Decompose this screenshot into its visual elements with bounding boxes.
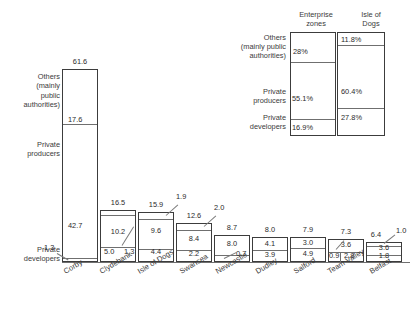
inset-row-label-producers: Private producers (224, 87, 286, 105)
value-corby-producers: 42.7 (68, 222, 82, 230)
value-clydebank-developers: 5.0 (104, 248, 114, 256)
inset-row-label-developers: Private developers (224, 113, 286, 131)
inset-divider-iod-producers (338, 108, 384, 109)
value-belfast-others: 1.0 (396, 227, 406, 235)
value-teamvalley-developers-a: 0.9 (329, 252, 339, 260)
inset-value-ez-producers: 55.1% (292, 94, 313, 103)
value-iod-total: 15.9 (134, 201, 178, 209)
divider-swansea-others (177, 230, 211, 231)
inset-row-label-others: Others (mainly public authorities) (224, 33, 286, 61)
value-iod-producers: 9.6 (134, 227, 178, 235)
inset-value-ez-others: 28% (293, 47, 308, 56)
inset-divider-iod-others (338, 45, 384, 46)
inset-value-iod-others: 11.8% (341, 35, 361, 44)
divider-iod-others (139, 219, 173, 220)
inset-divider-ez-producers (291, 119, 335, 120)
figure-stacked-bar-chart: Others (mainly public authorities) Priva… (0, 0, 415, 325)
value-iod-others: 1.9 (176, 193, 186, 201)
divider-clydebank-others (101, 215, 135, 216)
inset-divider-ez-others (291, 62, 335, 63)
inset-value-ez-developers: 16.9% (292, 123, 313, 132)
inset-column-head-isle-of-dogs: Isle of Dogs (347, 10, 395, 28)
value-corby-developers: 1.3 (44, 244, 54, 252)
inset-value-iod-developers: 27.8% (341, 113, 362, 122)
inset-percentage-comparison: Enterprise zones Isle of Dogs Others (ma… (0, 0, 415, 145)
value-swansea-total: 12.6 (172, 212, 216, 220)
inset-column-head-enterprise-zones: Enterprise zones (289, 10, 343, 28)
inset-value-iod-producers: 60.4% (341, 87, 362, 96)
value-swansea-others: 2.0 (214, 204, 224, 212)
